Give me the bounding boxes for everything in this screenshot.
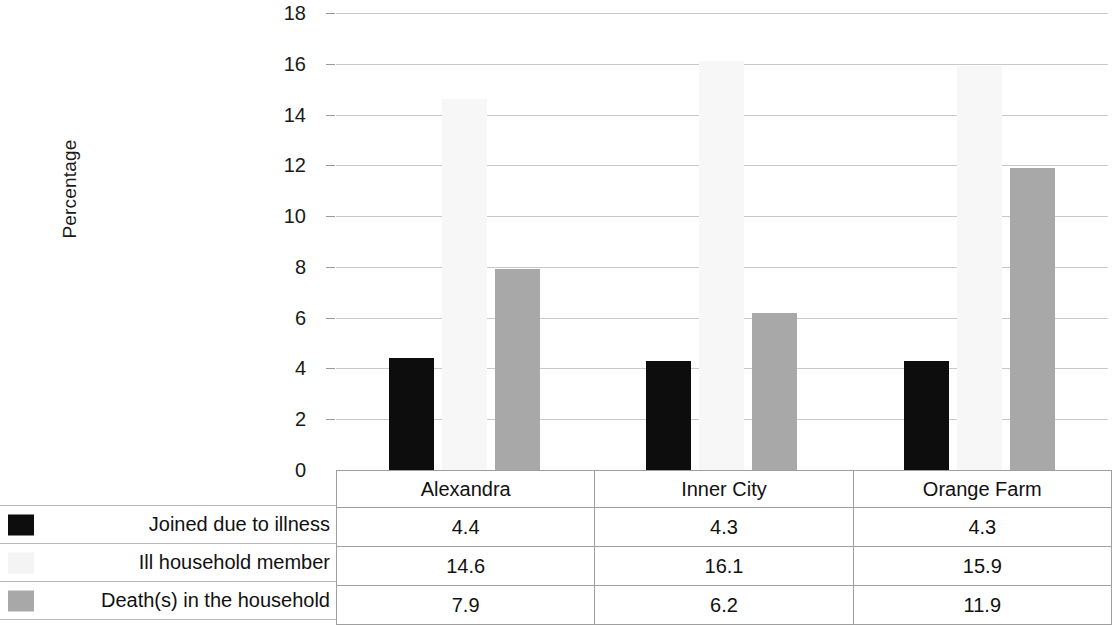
- data-table: AlexandraInner CityOrange Farm4.44.34.31…: [336, 470, 1112, 625]
- table-row: 4.44.34.3: [337, 508, 1112, 547]
- bar-group: [593, 13, 850, 470]
- bar: [1010, 168, 1055, 470]
- y-axis-tick-mark: [326, 368, 335, 369]
- table-cell: 4.3: [853, 508, 1111, 547]
- table-row: 14.616.115.9: [337, 547, 1112, 586]
- y-axis-tick-label: 4: [250, 358, 306, 378]
- legend-item: Joined due to illness: [0, 505, 336, 544]
- y-axis-tick-mark: [326, 13, 335, 14]
- y-axis-tick-label: 12: [250, 155, 306, 175]
- black-swatch-icon: [8, 514, 34, 535]
- y-axis-title: Percentage: [59, 129, 81, 249]
- legend-item: Death(s) in the household: [0, 581, 336, 620]
- plot-area: [336, 13, 1108, 470]
- bar: [904, 361, 949, 470]
- table-cell: 4.3: [595, 508, 853, 547]
- table-header-cell: Orange Farm: [853, 471, 1111, 508]
- table-header-row: AlexandraInner CityOrange Farm: [337, 471, 1112, 508]
- bar: [442, 99, 487, 470]
- y-axis-tick-mark: [326, 64, 335, 65]
- y-axis-tick-mark: [326, 318, 335, 319]
- legend: Joined due to illnessIll household membe…: [0, 506, 336, 620]
- table-cell: 14.6: [337, 547, 595, 586]
- bar-group: [851, 13, 1108, 470]
- y-axis-tick-label: 8: [250, 257, 306, 277]
- y-axis-tick-label: 2: [250, 409, 306, 429]
- table-cell: 11.9: [853, 586, 1111, 625]
- y-axis-tick-label: 18: [250, 3, 306, 23]
- table-cell: 15.9: [853, 547, 1111, 586]
- legend-item: Ill household member: [0, 543, 336, 582]
- bar: [957, 66, 1002, 470]
- y-axis-tick-label: 14: [250, 105, 306, 125]
- table-header-cell: Alexandra: [337, 471, 595, 508]
- chart-figure: Percentage 024681012141618 Joined due to…: [0, 0, 1117, 625]
- bar: [389, 358, 434, 470]
- y-axis-tick-mark: [326, 216, 335, 217]
- table-cell: 7.9: [337, 586, 595, 625]
- y-axis-tick-mark: [326, 419, 335, 420]
- table-row: 7.96.211.9: [337, 586, 1112, 625]
- bar: [646, 361, 691, 470]
- table-cell: 16.1: [595, 547, 853, 586]
- y-axis-tick-label: 10: [250, 206, 306, 226]
- y-axis-tick-mark: [326, 115, 335, 116]
- table-header-cell: Inner City: [595, 471, 853, 508]
- y-axis-tick-label: 16: [250, 54, 306, 74]
- y-axis-tick-mark: [326, 165, 335, 166]
- table-cell: 4.4: [337, 508, 595, 547]
- white-swatch-icon: [8, 552, 34, 573]
- legend-item-label: Death(s) in the household: [101, 589, 336, 612]
- bar-group: [336, 13, 593, 470]
- legend-item-label: Joined due to illness: [149, 513, 336, 536]
- y-axis-tick-label: 0: [250, 460, 306, 480]
- bar: [495, 269, 540, 470]
- legend-item-label: Ill household member: [139, 551, 336, 574]
- y-axis-tick-label: 6: [250, 308, 306, 328]
- y-axis-tick-mark: [326, 267, 335, 268]
- bar: [699, 61, 744, 470]
- bar: [752, 313, 797, 470]
- gray-swatch-icon: [8, 590, 34, 611]
- table-cell: 6.2: [595, 586, 853, 625]
